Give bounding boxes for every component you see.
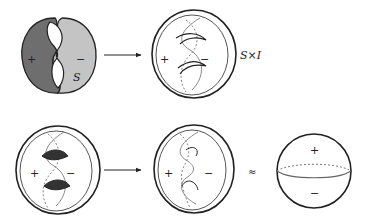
plus-label: +	[160, 54, 169, 65]
plus-label: +	[164, 168, 173, 179]
shaded-handles	[16, 126, 100, 214]
plus-label: +	[310, 145, 319, 156]
product-label: S×I	[240, 50, 261, 61]
plus-label: +	[27, 54, 36, 65]
minus-label: −	[200, 54, 209, 65]
minus-label: −	[310, 188, 319, 199]
minus-label: −	[204, 168, 213, 179]
minus-label: −	[66, 168, 75, 179]
minus-label: −	[76, 54, 85, 65]
approx-sign: ≈	[248, 167, 256, 177]
plus-label: +	[30, 168, 39, 179]
surface-name: S	[73, 72, 81, 83]
